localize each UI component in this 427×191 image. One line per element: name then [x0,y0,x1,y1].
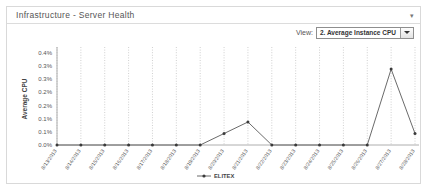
x-axis-tick-label: 8/22/2013 [254,148,272,170]
x-axis-tick-label: 8/27/2013 [374,148,392,170]
x-axis-tick-label: 8/20/2013 [207,148,225,170]
data-point[interactable] [103,144,106,147]
data-point[interactable] [366,144,369,147]
data-point[interactable] [151,144,154,147]
x-axis-tick-label: 8/28/2013 [398,148,416,170]
line-chart: 0.4%0.3%0.3%0.2%0.2%0.1%0.1%0.0%Average … [7,40,420,184]
data-point[interactable] [127,144,130,147]
data-point[interactable] [414,132,417,135]
panel-header: Infrastructure - Server Health ▾ [7,7,420,24]
x-axis-tick-label: 8/16/2013 [111,148,129,170]
view-label: View: [296,29,313,36]
x-axis-tick-label: 8/14/2013 [64,148,82,170]
x-axis-tick-label: 8/24/2013 [302,148,320,170]
chart-container: 0.4%0.3%0.3%0.2%0.2%0.1%0.1%0.0%Average … [7,40,420,184]
x-axis-tick-label: 8/23/2013 [278,148,296,170]
y-axis-tick-label: 0.4% [38,50,52,56]
data-point[interactable] [390,68,393,71]
series-line-elitex [57,69,415,145]
y-axis-tick-label: 0.3% [38,63,52,69]
y-axis-tick-label: 0.0% [38,142,52,148]
y-axis-title: Average CPU [21,78,29,119]
dashboard-panel: Infrastructure - Server Health ▾ View: 2… [6,6,421,184]
data-point[interactable] [79,144,82,147]
data-point[interactable] [56,144,59,147]
y-axis-tick-label: 0.3% [38,76,52,82]
data-point[interactable] [223,132,226,135]
data-point[interactable] [270,144,273,147]
x-axis-tick-label: 8/17/2013 [135,148,153,170]
x-axis-tick-label: 8/21/2013 [231,148,249,170]
data-point[interactable] [246,121,249,124]
y-axis-tick-label: 0.2% [38,89,52,95]
data-point[interactable] [199,144,202,147]
data-point[interactable] [294,144,297,147]
x-axis-tick-label: 8/13/2013 [40,148,58,170]
view-selector-row: View: 2. Average Instance CPU [296,26,414,39]
legend-label: ELITEX [214,173,234,179]
legend-point-marker [202,174,205,177]
data-point[interactable] [175,144,178,147]
y-axis-tick-label: 0.1% [38,129,52,135]
y-axis-tick-label: 0.1% [38,116,52,122]
x-axis-tick-label: 8/18/2013 [159,148,177,170]
chevron-down-icon[interactable]: ▾ [408,11,415,19]
chevron-down-icon[interactable] [400,28,413,38]
view-select[interactable]: 2. Average Instance CPU [316,27,414,39]
y-axis-tick-label: 0.2% [38,103,52,109]
view-select-value: 2. Average Instance CPU [317,28,400,38]
data-point[interactable] [342,144,345,147]
x-axis-tick-label: 8/25/2013 [326,148,344,170]
x-axis-tick-label: 8/26/2013 [350,148,368,170]
data-point[interactable] [318,144,321,147]
x-axis-tick-label: 8/19/2013 [183,148,201,170]
page-title: Infrastructure - Server Health [16,10,135,20]
x-axis-tick-label: 8/15/2013 [87,148,105,170]
